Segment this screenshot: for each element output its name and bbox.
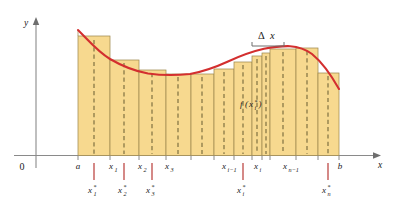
sample-label-xi-star: x i * (236, 183, 246, 197)
x-axis-label: x (377, 160, 383, 170)
sample-label-sup: * (328, 183, 331, 190)
y-axis-label: y (23, 18, 29, 28)
partition-labels-group: a x 1 x 2 x 3 x i−1 x i x (76, 161, 343, 173)
partition-label-sub: 2 (144, 166, 147, 173)
sample-label-base: x (87, 185, 92, 195)
sample-label-base: x (321, 185, 326, 195)
sample-label-x2-star: x 2 * (117, 183, 127, 197)
partition-label-x1: x 1 (108, 161, 118, 173)
sample-label-x1-star: x 1 * (87, 183, 97, 197)
delta-x-label: Δ x (258, 30, 275, 41)
partition-label-sub: 1 (115, 166, 118, 173)
partition-label-base: x (253, 161, 258, 171)
partition-label-sub: i−1 (228, 166, 237, 173)
sample-label-xn-star: x n * (321, 183, 331, 197)
partition-label-xi-minus-1: x i−1 (221, 161, 237, 173)
f-base: x (248, 99, 253, 109)
origin-label: 0 (20, 161, 25, 172)
partition-label-base: x (164, 161, 169, 171)
partition-label-sub: n−1 (289, 166, 299, 173)
partition-label-base: x (282, 161, 287, 171)
partition-label-b: b (338, 161, 343, 171)
sample-label-sub: i (243, 190, 245, 197)
f-subscript: i (255, 104, 257, 111)
y-axis-arrow-icon (33, 17, 39, 25)
sample-labels-group: x 1 * x 2 * x 3 * x i * x n * (87, 183, 331, 197)
sample-label-sub: n (328, 190, 331, 197)
delta-x-symbol: Δ (258, 30, 265, 41)
delta-x-variable: x (269, 30, 275, 41)
partition-label-x2: x 2 (137, 161, 147, 173)
sample-label-sub: 1 (94, 190, 97, 197)
sample-label-sub: 2 (124, 190, 127, 197)
x-axis-arrow-icon (373, 152, 381, 158)
sample-label-base: x (145, 185, 150, 195)
partition-label-base: x (137, 161, 142, 171)
sample-label-sup: * (94, 183, 97, 190)
riemann-bar (270, 49, 296, 156)
sample-label-sup: * (152, 183, 155, 190)
partition-label-base: a (76, 161, 81, 171)
partition-label-a: a (76, 161, 81, 171)
partition-label-base: x (108, 161, 113, 171)
sample-label-base: x (236, 185, 241, 195)
partition-label-xi: x i (253, 161, 262, 173)
sample-label-sup: * (243, 183, 246, 190)
sample-label-sub: 3 (151, 190, 155, 197)
partition-ticks-group (78, 156, 339, 161)
partition-label-x3: x 3 (164, 161, 174, 173)
partition-label-base: b (338, 161, 343, 171)
riemann-diagram: y x 0 Δ x f ( x i * ) a x 1 x (0, 0, 393, 202)
f-close-paren: ) (258, 99, 262, 109)
partition-label-sub: 3 (170, 166, 174, 173)
partition-label-sub: i (260, 166, 262, 173)
sample-label-base: x (117, 185, 122, 195)
delta-x-brace (252, 42, 284, 46)
partition-label-xn-minus-1: x n−1 (282, 161, 299, 173)
sample-label-sup: * (124, 183, 127, 190)
f-superscript: * (255, 98, 258, 105)
riemann-bars-group (78, 36, 339, 156)
partition-label-base: x (221, 161, 226, 171)
sample-label-x3-star: x 3 * (145, 183, 155, 197)
riemann-sum-figure: y x 0 Δ x f ( x i * ) a x 1 x (0, 0, 393, 202)
